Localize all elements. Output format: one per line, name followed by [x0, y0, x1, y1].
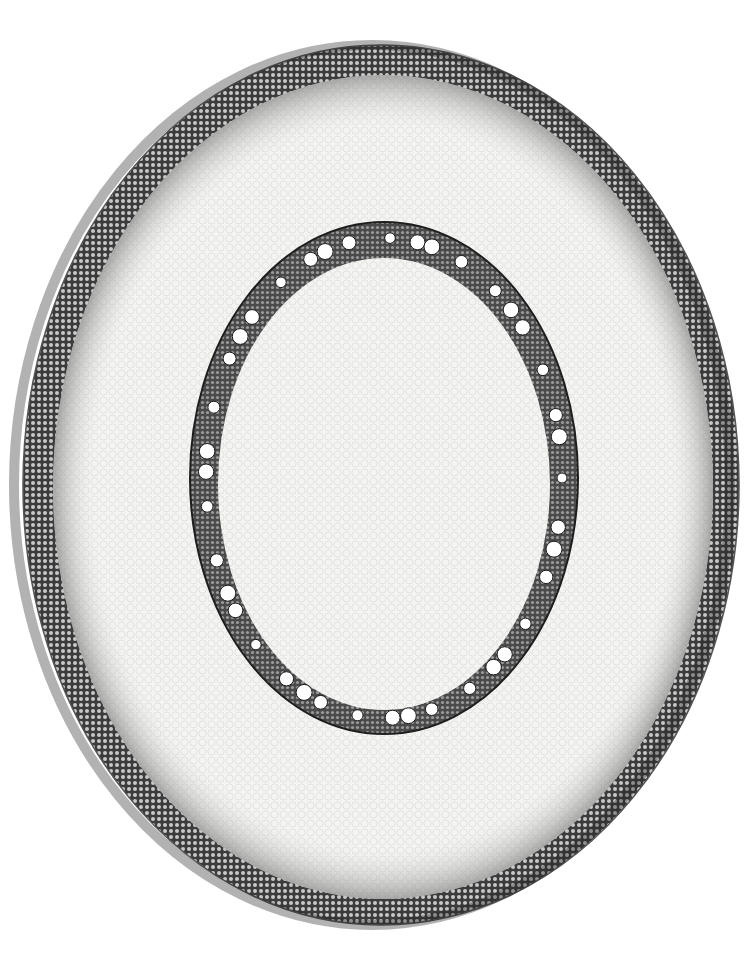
vessel-lumen	[515, 320, 530, 335]
vessel-lumen	[410, 235, 425, 250]
vessel-lumen	[385, 233, 396, 244]
vessel-lumen	[223, 352, 236, 365]
vessel-lumen	[520, 618, 531, 629]
vessel-lumen	[540, 570, 553, 583]
vessel-lumen	[208, 401, 220, 413]
vessel-lumen	[342, 236, 356, 250]
root-cross-section-micrograph	[0, 0, 756, 968]
vessel-lumen	[276, 277, 287, 288]
vessel-lumen	[251, 639, 261, 649]
pith	[218, 258, 550, 710]
vessel-lumen	[425, 703, 438, 716]
vessel-lumen	[296, 684, 312, 700]
vessel-lumen	[486, 659, 502, 675]
vessel-lumen	[464, 682, 476, 694]
vessel-lumen	[317, 244, 333, 260]
vessel-lumen	[557, 473, 567, 483]
vessel-lumen	[228, 603, 243, 618]
vessel-lumen	[503, 302, 519, 318]
vessel-lumen	[551, 520, 565, 534]
vessel-lumen	[455, 255, 468, 268]
vessel-lumen	[199, 444, 215, 460]
vessel-lumen	[198, 464, 213, 479]
vessel-lumen	[304, 252, 318, 266]
vessel-lumen	[385, 710, 400, 725]
vessel-lumen	[279, 672, 293, 686]
vessel-lumen	[489, 285, 501, 297]
vessel-lumen	[210, 554, 223, 567]
vessel-lumen	[401, 708, 417, 724]
vessel-lumen	[245, 310, 260, 325]
vessel-lumen	[314, 695, 328, 709]
vessel-lumen	[220, 585, 236, 601]
vessel-lumen	[546, 541, 562, 557]
vessel-lumen	[551, 429, 567, 445]
vessel-lumen	[232, 329, 248, 345]
vessel-lumen	[201, 501, 213, 513]
vessel-lumen	[537, 364, 549, 376]
vessel-lumen	[497, 647, 512, 662]
vessel-lumen	[424, 239, 440, 255]
vessel-lumen	[549, 409, 562, 422]
vessel-lumen	[352, 710, 363, 721]
